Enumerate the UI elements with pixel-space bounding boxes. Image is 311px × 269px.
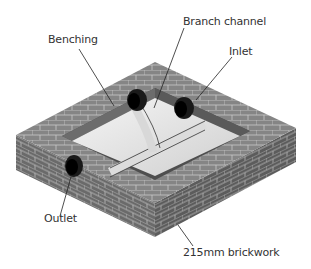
outlet-pipe (65, 155, 83, 177)
label-benching: Benching (48, 33, 98, 46)
label-outlet: Outlet (44, 212, 77, 225)
chamber-illustration (0, 0, 311, 269)
inlet-pipe (174, 97, 194, 119)
label-inlet: Inlet (229, 45, 252, 58)
label-brickwork: 215mm brickwork (183, 246, 280, 259)
branch-pipe (127, 89, 147, 111)
label-branch-channel: Branch channel (183, 15, 266, 28)
